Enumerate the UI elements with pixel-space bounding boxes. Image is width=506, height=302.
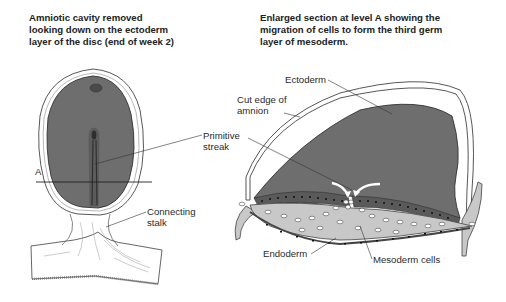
cut-edge-label-line2: amnion xyxy=(237,105,287,116)
connecting-stalk-leader xyxy=(106,212,146,227)
section-marker-a: A xyxy=(35,166,41,177)
mesoderm-cells-label: Mesoderm cells xyxy=(373,254,440,265)
cut-edge-of-amnion-label: Cut edge of amnion xyxy=(237,94,287,116)
connecting-stalk-drawing xyxy=(31,214,162,284)
primitive-streak-label-line1: Primitive xyxy=(203,130,240,141)
embryonic-disc-top-view xyxy=(39,69,144,215)
ectoderm-label: Ectoderm xyxy=(285,74,326,85)
endoderm-label: Endoderm xyxy=(263,248,307,259)
connecting-stalk-label-line1: Connecting xyxy=(147,206,196,217)
cut-edge-label-line1: Cut edge of xyxy=(237,94,287,105)
connecting-stalk-label-line2: stalk xyxy=(147,217,196,228)
primitive-streak-label: Primitive streak xyxy=(203,130,240,152)
primitive-streak-label-line2: streak xyxy=(203,141,240,152)
connecting-stalk-label: Connecting stalk xyxy=(147,206,196,228)
